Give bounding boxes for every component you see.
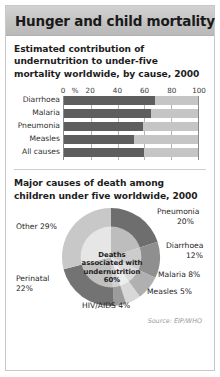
pie-label-diarrhoea-value: 12% [186, 251, 203, 261]
axis-tick-60: 60 [140, 86, 149, 95]
pie-label-hivaids: HIV/AIDS 4% [82, 301, 130, 311]
bar-fill [64, 96, 155, 105]
bar-row: Diarrhoea [64, 96, 198, 105]
axis-tick-percent: % [72, 86, 79, 95]
pie-label-pneumonia-name: Pneumonia [157, 207, 199, 217]
header-bar: Hunger and child mortality [6, 6, 214, 36]
pie-label-perinatal-name: Perinatal [16, 274, 49, 284]
bar-category-label: All causes [22, 147, 60, 156]
bar-fill [64, 122, 143, 131]
bar-row: All causes [64, 148, 198, 157]
pie-chart-title: Major causes of death among children und… [14, 177, 206, 202]
axis-tick-40: 40 [113, 86, 122, 95]
bar-chart-title: Estimated contribution of undernutrition… [14, 43, 206, 80]
bar-row: Pneumonia [64, 122, 198, 131]
bar-row: Measles [64, 135, 198, 144]
axis-tick-20: 20 [86, 86, 95, 95]
axis-tick-100: 100 [192, 86, 206, 95]
infographic-root: Hunger and child mortality Estimated con… [0, 0, 220, 377]
bar-fill [64, 109, 151, 118]
section-pie-chart: Major causes of death among children und… [6, 170, 214, 326]
bar-category-label: Diarrhoea [23, 95, 60, 104]
page-title: Hunger and child mortality [15, 13, 215, 29]
pie-label-perinatal-value: 22% [16, 284, 33, 294]
section-bar-chart: Estimated contribution of undernutrition… [6, 36, 214, 162]
pie-chart: Deaths associated with undernutrition 60… [14, 204, 206, 326]
pie-label-diarrhoea-name: Diarrhoea [166, 241, 203, 251]
infographic-panel: Hunger and child mortality Estimated con… [5, 5, 215, 371]
source-credit: Source: EIP/WHO [148, 317, 202, 325]
bar-category-label: Measles [29, 134, 60, 143]
bar-row: Malaria [64, 109, 198, 118]
pie-label-malaria: Malaria 8% [158, 270, 200, 280]
bar-chart-plot-area: DiarrhoeaMalariaPneumoniaMeaslesAll caus… [63, 96, 199, 160]
pie-label-measles: Measles 5% [147, 287, 192, 297]
pie-center-line-3: undernutrition [75, 268, 149, 276]
pie-center-line-4: 60% [75, 276, 149, 284]
pie-center-line-2: associated with [75, 259, 149, 267]
axis-tick-80: 80 [167, 86, 176, 95]
bar-chart-x-axis: 0%20406080100 [63, 86, 199, 96]
pie-center-line-1: Deaths [75, 251, 149, 259]
bar-fill [64, 135, 134, 144]
bar-category-label: Malaria [32, 108, 60, 117]
axis-tick-0: 0 [61, 86, 66, 95]
pie-center-annotation: Deaths associated with undernutrition 60… [75, 251, 149, 285]
pie-label-other: Other 29% [16, 222, 57, 232]
bar-chart: 0%20406080100 DiarrhoeaMalariaPneumoniaM… [14, 86, 206, 162]
bar-fill [64, 148, 144, 157]
pie-label-pneumonia-value: 20% [177, 217, 194, 227]
bar-category-label: Pneumonia [18, 121, 60, 130]
